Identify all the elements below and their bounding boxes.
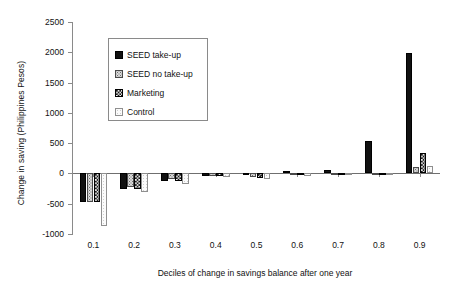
bar — [175, 173, 182, 181]
y-tick-label: 500 — [0, 138, 64, 148]
legend: SEED take-up SEED no take-up Marketing C… — [108, 38, 208, 121]
bar — [297, 173, 304, 175]
bar — [420, 153, 427, 173]
y-tick-label: 2500 — [0, 17, 64, 27]
legend-swatch-icon-marketing — [115, 89, 123, 97]
bar — [324, 170, 331, 174]
bar — [168, 173, 175, 179]
bar — [94, 173, 101, 201]
x-tick-label: 0.6 — [277, 240, 317, 250]
bar — [250, 173, 257, 177]
y-tick-label: -1000 — [0, 229, 64, 239]
bar — [134, 173, 141, 189]
y-tick-mark — [68, 204, 73, 205]
legend-label: Control — [127, 107, 154, 117]
bar — [223, 173, 230, 176]
bar — [80, 173, 87, 201]
legend-item-seed-no-take-up: SEED no take-up — [115, 64, 207, 83]
y-tick-mark — [68, 83, 73, 84]
bar — [331, 173, 338, 175]
legend-item-seed-take-up: SEED take-up — [115, 45, 207, 64]
bar — [101, 173, 108, 225]
bar — [161, 173, 168, 180]
x-axis-label: Deciles of change in savings balance aft… — [70, 268, 440, 278]
bar — [345, 173, 352, 175]
bar — [120, 173, 127, 188]
y-tick-mark — [68, 22, 73, 23]
legend-label: SEED take-up — [127, 50, 181, 60]
y-tick-label: 1500 — [0, 78, 64, 88]
x-tick-label: 0.1 — [73, 240, 113, 250]
x-tick-label: 0.2 — [114, 240, 154, 250]
bar — [264, 173, 271, 178]
y-tick-mark — [68, 173, 73, 174]
bar — [372, 173, 379, 175]
x-tick-label: 0.8 — [359, 240, 399, 250]
legend-label: Marketing — [127, 88, 164, 98]
bar — [413, 167, 420, 173]
bar — [141, 173, 148, 192]
bar — [127, 173, 134, 187]
bar — [283, 171, 290, 173]
bar — [338, 173, 345, 175]
x-tick-label: 0.7 — [318, 240, 358, 250]
legend-swatch-icon-control — [115, 108, 123, 116]
legend-swatch-icon-seed-no-take-up — [115, 70, 123, 78]
legend-swatch-icon-seed-take-up — [115, 51, 123, 59]
y-tick-label: 0 — [0, 168, 64, 178]
y-tick-mark — [68, 234, 73, 235]
legend-label: SEED no take-up — [127, 69, 193, 79]
bar — [365, 141, 372, 174]
y-tick-mark — [68, 52, 73, 53]
bar — [290, 173, 297, 175]
y-tick-mark — [68, 143, 73, 144]
bar — [209, 173, 216, 175]
x-tick-label: 0.5 — [237, 240, 277, 250]
legend-item-control: Control — [115, 102, 207, 121]
bar — [216, 173, 223, 176]
y-tick-label: -500 — [0, 199, 64, 209]
bar — [243, 173, 250, 175]
bar-chart: Change in saving (Philippines Pesos) Dec… — [0, 0, 450, 290]
bar — [87, 173, 94, 201]
bar — [379, 173, 386, 175]
x-tick-label: 0.4 — [196, 240, 236, 250]
bar — [406, 53, 413, 174]
y-tick-mark — [68, 113, 73, 114]
x-tick-label: 0.3 — [155, 240, 195, 250]
legend-item-marketing: Marketing — [115, 83, 207, 102]
x-tick-label: 0.9 — [400, 240, 440, 250]
x-tick-mark — [420, 173, 421, 177]
bar — [182, 173, 189, 183]
bar — [304, 173, 311, 175]
bar — [202, 173, 209, 175]
y-tick-label: 2000 — [0, 47, 64, 57]
y-tick-label: 1000 — [0, 108, 64, 118]
y-axis-line — [72, 22, 73, 234]
bar — [257, 173, 264, 178]
bar — [427, 166, 434, 173]
bar — [386, 173, 393, 175]
